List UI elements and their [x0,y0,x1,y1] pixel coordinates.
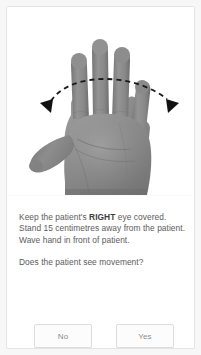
answer-button-row: No Yes [7,319,194,349]
screen: Keep the patient's RIGHT eye covered. St… [0,0,201,355]
hand-illustration-svg [7,7,194,195]
instruction-text-block: Keep the patient's RIGHT eye covered. St… [19,212,191,269]
instruction-line-1-strong: RIGHT [89,212,115,222]
illustration-panel [7,7,194,195]
yes-button[interactable]: Yes [116,324,174,348]
no-button[interactable]: No [34,324,92,348]
instruction-line-1-before: Keep the patient's [19,212,89,222]
instruction-line-1: Keep the patient's RIGHT eye covered. [19,212,191,223]
instruction-line-2: Stand 15 centimetres away from the patie… [19,223,191,234]
open-right-hand-photo [7,7,194,195]
instruction-card: Keep the patient's RIGHT eye covered. St… [6,6,195,349]
instruction-line-1-after: eye covered. [115,212,166,222]
panel-divider [7,195,194,196]
instruction-line-3: Wave hand in front of patient. [19,235,191,246]
question-text: Does the patient see movement? [19,257,191,268]
